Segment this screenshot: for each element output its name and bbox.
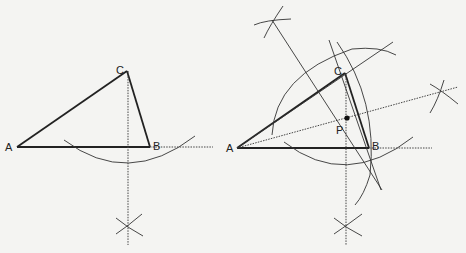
- label-c: C: [334, 65, 342, 77]
- chord-line: [329, 40, 381, 190]
- label-c: C: [116, 64, 124, 76]
- side-ac: [17, 71, 127, 147]
- bottom-cross-arc-2: [334, 214, 362, 234]
- right-cross-arc-1: [430, 84, 458, 104]
- cross-arc-1: [116, 218, 143, 236]
- bottom-cross-arc-1: [334, 218, 362, 236]
- side-cb: [345, 73, 369, 148]
- large-arc-top: [272, 48, 396, 135]
- label-a: A: [5, 141, 13, 153]
- ray-from-a: [237, 42, 393, 148]
- right-figure: A B C P: [226, 6, 458, 245]
- arc-below-ab: [64, 136, 195, 163]
- side-cb: [127, 71, 150, 147]
- point-p: [344, 115, 349, 120]
- label-b: B: [372, 140, 379, 152]
- left-figure: A B C: [5, 64, 213, 245]
- label-p: P: [336, 124, 343, 136]
- label-b: B: [153, 140, 160, 152]
- cross-arc-2: [116, 214, 142, 234]
- label-a: A: [226, 142, 234, 154]
- construction-diagram: A B C A B C P: [0, 0, 466, 253]
- arc-below-ab: [284, 137, 413, 165]
